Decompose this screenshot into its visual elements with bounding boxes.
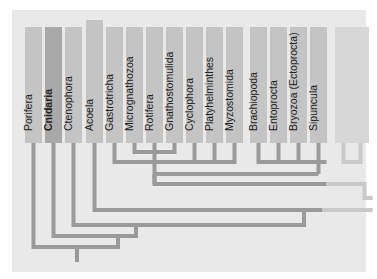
phylogeny-branches — [0, 0, 377, 279]
branch-line — [327, 184, 373, 198]
branch-line — [95, 143, 323, 210]
branch-line — [34, 143, 119, 247]
branch-line — [344, 143, 361, 162]
branch-line — [259, 143, 327, 162]
